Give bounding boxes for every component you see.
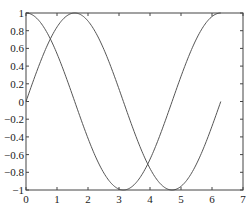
y-tick-label: 0	[19, 96, 25, 108]
y-tick-label: −0.2	[4, 113, 24, 125]
x-tick-label: 6	[209, 193, 215, 205]
x-tick-label: 1	[54, 193, 60, 205]
y-tick-label: 0.4	[10, 60, 24, 72]
x-tick-label: 5	[178, 193, 184, 205]
x-tick-label: 4	[147, 193, 153, 205]
y-tick-label: 0.2	[10, 78, 24, 90]
y-tick-label: −1	[12, 184, 24, 196]
axes	[26, 13, 243, 190]
plot-area	[26, 13, 221, 190]
x-tick-label: 0	[23, 193, 29, 205]
y-tick-label: 0.8	[10, 25, 24, 37]
y-tick-label: 0.6	[10, 42, 24, 54]
x-tick-label: 7	[240, 193, 246, 205]
y-tick-label: 1	[19, 7, 25, 19]
y-tick-label: −0.6	[4, 149, 24, 161]
axes-box	[26, 13, 243, 190]
x-tick-label: 3	[116, 193, 122, 205]
y-tick-label: −0.8	[4, 166, 24, 178]
x-axis-ticks: 01234567	[23, 13, 246, 205]
line-chart: 01234567 10.80.60.40.20−0.2−0.4−0.6−0.8−…	[0, 0, 246, 208]
y-tick-label: −0.4	[4, 131, 24, 143]
series-line-sin(x)	[26, 13, 221, 190]
x-tick-label: 2	[85, 193, 91, 205]
